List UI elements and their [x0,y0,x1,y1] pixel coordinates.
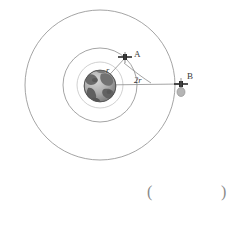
satellite-b-label: B [187,71,193,81]
answer-blank-row: ( ) [0,181,241,209]
answer-left-paren: ( [147,184,152,200]
radius-label-2r: 2r [134,75,142,85]
satellite-b-module [177,88,185,97]
answer-right-paren: ) [221,184,226,200]
satellite-a-label: A [134,49,141,59]
